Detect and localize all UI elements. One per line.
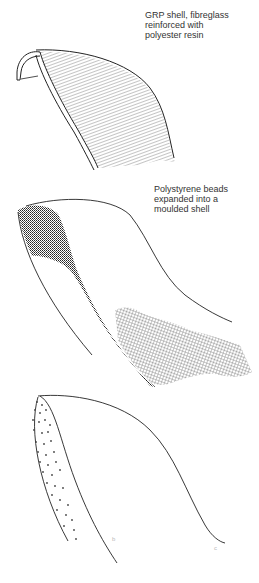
polystyrene-shell-label-line-3: moulded shell xyxy=(154,204,228,214)
grp-shell-label-line-2: reinforced with xyxy=(145,20,229,30)
polystyrene-shell-label-line-2: expanded into a xyxy=(154,194,228,204)
grp-shell-label: GRP shell, fibreglass reinforced with po… xyxy=(145,10,229,40)
figure-mark-b: b xyxy=(112,536,115,542)
polystyrene-shell-label: Polystyrene beads expanded into a moulde… xyxy=(154,184,228,214)
grp-shell-illustration xyxy=(0,0,259,583)
polystyrene-shell-body xyxy=(18,199,252,387)
figure-mark-c: c xyxy=(214,545,217,551)
grp-shell-body xyxy=(17,50,175,170)
grp-shell-label-line-1: GRP shell, fibreglass xyxy=(145,10,229,20)
grp-shell-label-line-3: polyester resin xyxy=(145,30,229,40)
polystyrene-shell-label-line-1: Polystyrene beads xyxy=(154,184,228,194)
thin-shell-outline xyxy=(32,395,225,563)
